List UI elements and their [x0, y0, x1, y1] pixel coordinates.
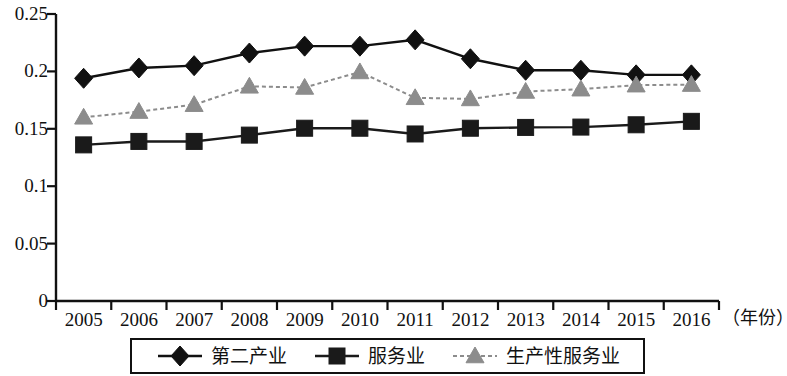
square-marker [628, 117, 644, 133]
diamond-marker [572, 60, 590, 80]
x-tick-label: 2016 [662, 310, 720, 329]
y-tick-label: 0.15 [0, 119, 48, 138]
legend-item-3: 生产性服务业 [451, 346, 620, 366]
x-tick-label: 2007 [165, 310, 223, 329]
square-marker [313, 346, 361, 366]
triangle-marker [185, 96, 203, 112]
y-tick-label: 0.1 [0, 176, 48, 195]
series-line [84, 121, 692, 145]
diamond-marker [406, 30, 424, 50]
x-tick-label: 2005 [55, 310, 113, 329]
y-tick-label: 0.25 [0, 4, 48, 23]
square-marker [131, 133, 147, 149]
line-chart: 00.050.10.150.20.25 20052006200720082009… [0, 0, 787, 376]
diamond-marker [296, 36, 314, 56]
square-marker [297, 120, 313, 136]
y-axis-ticks [47, 14, 56, 301]
triangle-marker [572, 80, 590, 96]
square-marker [76, 137, 92, 153]
series-line [84, 72, 692, 117]
triangle-marker [451, 346, 499, 366]
diamond-marker [156, 346, 204, 366]
diamond-marker [185, 56, 203, 76]
legend-label: 生产性服务业 [506, 347, 620, 366]
square-marker [573, 119, 589, 135]
x-tick-label: 2006 [110, 310, 168, 329]
triangle-marker [517, 82, 535, 98]
legend-label: 服务业 [368, 347, 425, 366]
x-tick-label: 2008 [220, 310, 278, 329]
axis-lines [56, 14, 719, 301]
diamond-marker [240, 43, 258, 63]
x-tick-label: 2013 [497, 310, 555, 329]
x-tick-label: 2009 [276, 310, 334, 329]
diamond-marker [171, 346, 189, 366]
square-marker [462, 120, 478, 136]
series-line [84, 40, 692, 78]
square-marker [683, 113, 699, 129]
diamond-marker [75, 68, 93, 88]
square-marker [518, 119, 534, 135]
square-marker [407, 126, 423, 142]
triangle-marker [240, 77, 258, 93]
triangle-marker [466, 347, 484, 363]
legend-label: 第二产业 [211, 347, 287, 366]
diamond-marker [517, 60, 535, 80]
x-tick-label: 2015 [607, 310, 665, 329]
series-2 [76, 113, 700, 153]
y-tick-label: 0.05 [0, 234, 48, 253]
diamond-marker [130, 58, 148, 78]
x-tick-label: 2012 [441, 310, 499, 329]
square-marker [352, 120, 368, 136]
square-marker [186, 133, 202, 149]
square-marker [241, 127, 257, 143]
y-tick-label: 0.2 [0, 61, 48, 80]
triangle-marker [75, 108, 93, 124]
y-tick-label: 0 [0, 291, 48, 310]
series-1 [75, 30, 701, 88]
triangle-marker [406, 89, 424, 105]
diamond-marker [461, 49, 479, 69]
square-marker [329, 348, 345, 364]
diamond-marker [351, 36, 369, 56]
triangle-marker [351, 63, 369, 79]
chart-legend: 第二产业服务业生产性服务业 [130, 338, 645, 374]
data-series-layer [75, 30, 701, 153]
x-tick-label: 2011 [386, 310, 444, 329]
legend-item-1: 第二产业 [156, 346, 287, 366]
x-tick-label: 2014 [552, 310, 610, 329]
x-axis-title: （年份） [722, 309, 787, 327]
legend-item-2: 服务业 [313, 346, 425, 366]
triangle-marker [130, 103, 148, 119]
x-tick-label: 2010 [331, 310, 389, 329]
